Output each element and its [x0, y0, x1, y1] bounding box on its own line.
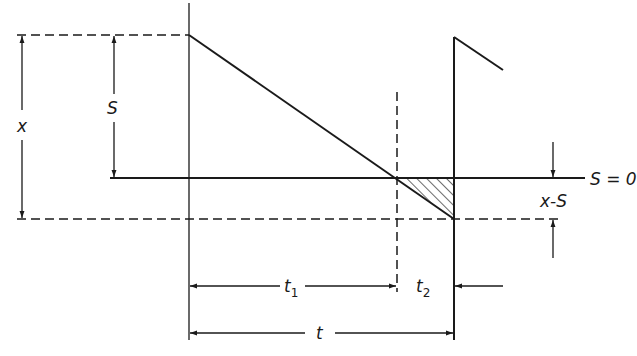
x-minus-s-label: x-S [539, 191, 567, 211]
s-label: S [107, 98, 118, 118]
s-zero-label: S = 0 [590, 169, 637, 189]
t-label: t [316, 323, 324, 343]
t1-label: t1 [284, 276, 298, 300]
inventory-diagram: x S x-S S = 0 t1 t2 t [0, 0, 637, 356]
next-cycle-line [454, 37, 503, 70]
t2-label: t2 [416, 276, 430, 300]
x-label: x [16, 116, 28, 136]
inventory-decline-line [189, 35, 454, 219]
